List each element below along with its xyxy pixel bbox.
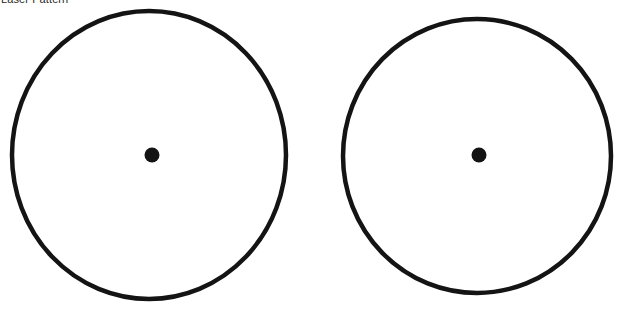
- left-circle-center-dot: [145, 148, 160, 163]
- two-circle-figure: [0, 0, 629, 309]
- right-circle-center-dot: [472, 148, 487, 163]
- diagram-canvas: Laser Pattern: [0, 0, 629, 309]
